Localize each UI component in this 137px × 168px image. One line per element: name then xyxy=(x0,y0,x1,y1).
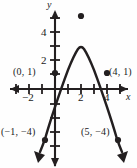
x-tick-label-4: 4 xyxy=(104,91,110,103)
point-label-4-1: (4, 1) xyxy=(109,66,132,77)
point-5-neg4 xyxy=(115,137,121,143)
parabola-curve xyxy=(34,47,128,163)
x-tick-label-neg2: −2 xyxy=(22,91,34,103)
y-tick-label-4: 4 xyxy=(41,26,47,38)
point-0-1 xyxy=(52,70,58,76)
point-label-0-1: (0, 1) xyxy=(13,66,36,77)
x-tick-label-2: 2 xyxy=(78,91,84,103)
coordinate-plane-svg xyxy=(0,0,137,168)
y-axis-label: y xyxy=(47,0,51,10)
x-axis-label: x xyxy=(126,91,130,102)
point-neg1-neg4 xyxy=(42,137,48,143)
point-label-neg1-neg4: (−1, −4) xyxy=(1,126,36,137)
y-tick-label-2: 2 xyxy=(41,54,47,66)
point-label-5-neg4: (5, −4) xyxy=(81,126,110,137)
point-vertex xyxy=(78,13,84,19)
graph-figure: y x −2 2 4 2 4 (0, 1) (4, 1) (−1, −4) (5… xyxy=(0,0,137,168)
